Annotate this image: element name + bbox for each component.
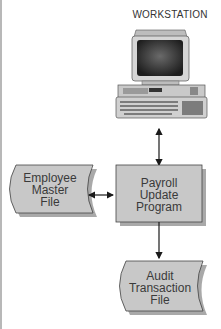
- employee-file-label: Employee Master File: [10, 172, 90, 208]
- desktop-computer-icon: [116, 30, 207, 118]
- process-label: Payroll Update Program: [116, 177, 202, 213]
- audit-file-label: Audit Transaction File: [118, 270, 202, 306]
